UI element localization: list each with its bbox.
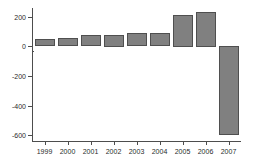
x-axis-tick: [114, 142, 115, 145]
bar-chart: 200 0 -200 -400 -600 1999 2000 2001 2002…: [0, 0, 260, 166]
x-axis-tick-label: 2002: [102, 148, 125, 156]
y-axis-tick-label: 200: [14, 14, 26, 21]
x-axis-tick: [229, 142, 230, 145]
x-axis-tick: [45, 142, 46, 145]
x-axis-tick: [91, 142, 92, 145]
bar-2005: [173, 15, 193, 47]
x-axis-tick: [137, 142, 138, 145]
bar-2001: [81, 35, 101, 46]
y-axis-tick-label: -600: [12, 132, 26, 139]
x-axis-tick-label: 2001: [79, 148, 102, 156]
bar-1999: [35, 39, 55, 46]
x-axis-tick: [160, 142, 161, 145]
x-axis-tick-label: 2006: [194, 148, 217, 156]
bar-2003: [127, 33, 147, 46]
x-axis-tick-label: 2000: [56, 148, 79, 156]
y-axis-tick-label: -400: [12, 103, 26, 110]
bar-2002: [104, 35, 124, 47]
bar-2004: [150, 33, 170, 46]
x-axis-tick-label: 2007: [217, 148, 240, 156]
y-axis-tick-label: -200: [12, 73, 26, 80]
bar-2006: [196, 12, 216, 47]
y-axis-line: [32, 8, 33, 142]
x-axis-tick: [183, 142, 184, 145]
x-axis-tick: [68, 142, 69, 145]
x-axis-tick: [206, 142, 207, 145]
x-axis-tick-label: 2005: [171, 148, 194, 156]
bar-2007: [219, 46, 239, 135]
x-axis-tick-label: 1999: [33, 148, 56, 156]
bar-2000: [58, 38, 78, 46]
x-axis-tick-label: 2003: [125, 148, 148, 156]
zero-baseline: [32, 51, 34, 52]
y-axis-tick-label: 0: [22, 43, 26, 50]
x-axis-tick-label: 2004: [148, 148, 171, 156]
